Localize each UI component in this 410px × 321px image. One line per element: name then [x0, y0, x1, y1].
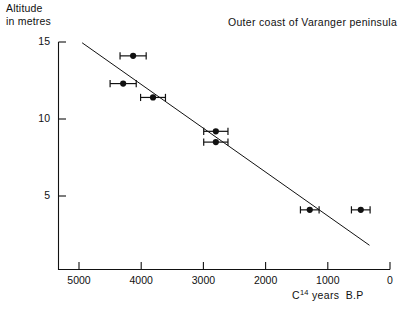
data-point	[141, 94, 166, 101]
data-point-marker	[358, 207, 364, 213]
trend-line	[82, 43, 369, 246]
data-point-marker	[213, 128, 219, 134]
data-point	[351, 206, 370, 213]
plot-area	[0, 0, 410, 321]
x-tick-label: 0	[368, 274, 410, 286]
data-point-marker	[150, 94, 156, 100]
x-axis-ticks	[79, 262, 390, 270]
x-tick-label: 5000	[57, 274, 101, 286]
data-points	[110, 52, 370, 213]
data-point-marker	[307, 207, 313, 213]
data-point-marker	[130, 53, 136, 59]
y-tick-label: 5	[24, 189, 50, 201]
data-point-marker	[120, 80, 126, 86]
y-axis-ticks	[59, 42, 67, 196]
x-tick-label: 1000	[306, 274, 350, 286]
y-tick-label: 15	[24, 35, 50, 47]
data-point	[204, 128, 228, 135]
data-point	[204, 139, 228, 146]
x-tick-label: 2000	[244, 274, 288, 286]
data-point	[110, 80, 136, 87]
regression-line	[82, 43, 369, 246]
chart-figure: Altitudein metres Outer coast of Varange…	[0, 0, 410, 321]
x-tick-label: 3000	[181, 274, 225, 286]
data-point-marker	[213, 139, 219, 145]
y-tick-label: 10	[24, 112, 50, 124]
axes	[58, 42, 390, 270]
x-tick-label: 4000	[119, 274, 163, 286]
data-point	[120, 52, 146, 59]
